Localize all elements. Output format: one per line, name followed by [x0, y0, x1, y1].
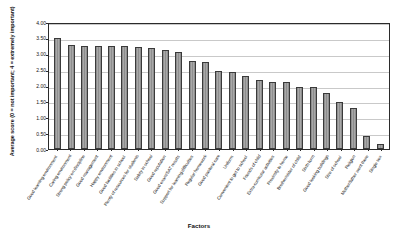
bar	[108, 46, 115, 149]
bar	[256, 80, 263, 149]
x-tick-label: Single sex	[368, 154, 383, 173]
bar	[350, 108, 357, 149]
bar-slot	[105, 24, 118, 149]
bar-slot	[199, 24, 212, 149]
x-tick-mark	[151, 149, 152, 151]
bar-slot	[159, 24, 172, 149]
bar	[336, 102, 343, 149]
bar-slot	[172, 24, 185, 149]
bar-slot	[132, 24, 145, 149]
y-tick-label: 0.00	[24, 148, 46, 153]
bar	[68, 45, 75, 149]
bar-slot	[64, 24, 77, 149]
x-tick-mark	[233, 149, 234, 151]
x-tick-mark	[260, 149, 261, 151]
plot-area	[48, 23, 390, 150]
x-tick-mark	[314, 149, 315, 151]
x-tick-mark	[341, 149, 342, 151]
bar-slot	[266, 24, 279, 149]
bar	[296, 87, 303, 149]
y-tick-label: 1.50	[24, 100, 46, 105]
y-tick-label: 2.00	[24, 84, 46, 89]
y-tick-label: 3.00	[24, 52, 46, 57]
x-tick-mark	[124, 149, 125, 151]
x-tick-mark	[178, 149, 179, 151]
bar	[323, 93, 330, 149]
bar	[175, 52, 182, 149]
bar	[135, 47, 142, 149]
x-tick-mark	[354, 149, 355, 151]
y-tick-label: 2.50	[24, 68, 46, 73]
bar-slot	[239, 24, 252, 149]
x-tick-mark	[381, 149, 382, 151]
bar	[242, 76, 249, 149]
x-tick-mark	[165, 149, 166, 151]
bar-slot	[279, 24, 292, 149]
x-tick-mark	[84, 149, 85, 151]
bar-slot	[145, 24, 158, 149]
y-axis-title-text: Average score (0 = not important; 4 = ex…	[9, 6, 16, 156]
bar-slot	[226, 24, 239, 149]
x-tick-mark	[219, 149, 220, 151]
bar	[81, 46, 88, 149]
x-tick-label: Religion	[344, 154, 357, 170]
x-tick-mark	[287, 149, 288, 151]
x-tick-mark	[273, 149, 274, 151]
bar	[148, 48, 155, 149]
bar-slot	[185, 24, 198, 149]
y-tick-label: 1.00	[24, 116, 46, 121]
bar	[162, 50, 169, 149]
x-tick-mark	[57, 149, 58, 151]
bar-slot	[51, 24, 64, 149]
x-tick-mark	[111, 149, 112, 151]
x-tick-mark	[246, 149, 247, 151]
bar	[363, 136, 370, 149]
x-axis-labels: Good learning environmentCaring environm…	[48, 151, 390, 213]
x-tick-label: Uniform	[222, 154, 234, 169]
x-tick-mark	[300, 149, 301, 151]
y-tick-label: 3.50	[24, 36, 46, 41]
x-tick-mark	[70, 149, 71, 151]
x-tick-mark	[205, 149, 206, 151]
bar-slot	[118, 24, 131, 149]
x-axis-title: Factors	[0, 222, 398, 229]
y-tick-label: 4.00	[24, 21, 46, 26]
bar-slot	[347, 24, 360, 149]
x-tick-mark	[97, 149, 98, 151]
bar	[189, 61, 196, 149]
bar	[54, 38, 61, 149]
x-tick-mark	[192, 149, 193, 151]
bar-slot	[91, 24, 104, 149]
bar-slot	[333, 24, 346, 149]
bar-slot	[360, 24, 373, 149]
bar-slot	[320, 24, 333, 149]
x-tick-mark	[138, 149, 139, 151]
bar-slot	[293, 24, 306, 149]
bar	[215, 71, 222, 149]
bar-slot	[374, 24, 387, 149]
bar-slot	[253, 24, 266, 149]
bar	[95, 46, 102, 149]
bar	[377, 144, 384, 149]
bar	[121, 46, 128, 149]
bar	[229, 72, 236, 149]
bar	[283, 82, 290, 149]
x-tick-mark	[327, 149, 328, 151]
y-axis-title: Average score (0 = not important; 4 = ex…	[4, 10, 20, 160]
bar	[269, 82, 276, 149]
bar-chart: Average score (0 = not important; 4 = ex…	[0, 0, 398, 246]
bar-slot	[306, 24, 319, 149]
bar-slot	[212, 24, 225, 149]
x-tick-label: Mother/father went there	[340, 154, 370, 196]
bar-slot	[78, 24, 91, 149]
bar-series	[49, 24, 389, 149]
y-tick-label: 0.50	[24, 132, 46, 137]
bar	[310, 87, 317, 149]
x-tick-mark	[368, 149, 369, 151]
bar	[202, 62, 209, 149]
y-axis-ticks: 0.000.501.001.502.002.503.003.504.00	[20, 23, 46, 150]
